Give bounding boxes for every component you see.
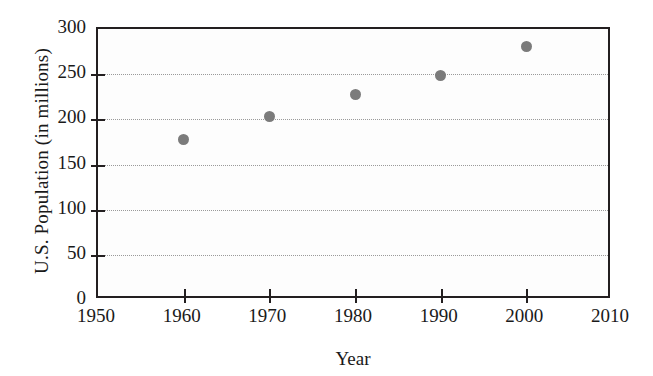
y-axis-tick-label: 200 xyxy=(26,107,86,126)
y-axis-tick-labels: 050100150200250300 xyxy=(22,27,86,298)
y-axis-tick xyxy=(91,119,105,121)
data-point xyxy=(264,111,275,122)
y-axis-tick xyxy=(91,255,105,257)
gridline-y xyxy=(98,74,608,75)
x-axis-tick-label: 2000 xyxy=(484,306,564,325)
x-axis-tick xyxy=(269,289,271,303)
y-axis-tick-label: 50 xyxy=(26,243,86,262)
x-axis-tick xyxy=(355,289,357,303)
x-axis-tick-label: 1980 xyxy=(313,306,393,325)
x-axis-tick xyxy=(441,289,443,303)
y-axis-tick-label: 300 xyxy=(26,17,86,36)
gridline-y xyxy=(98,165,608,166)
x-axis-tick-label: 1990 xyxy=(399,306,479,325)
data-point xyxy=(350,89,361,100)
data-point xyxy=(178,134,189,145)
x-axis-tick xyxy=(526,289,528,303)
y-axis-tick xyxy=(91,210,105,212)
x-axis-tick xyxy=(184,289,186,303)
gridline-y xyxy=(98,255,608,256)
x-axis-tick-label: 1970 xyxy=(227,306,307,325)
data-point xyxy=(521,41,532,52)
y-axis-tick xyxy=(91,74,105,76)
x-axis-title: Year xyxy=(96,348,610,370)
x-axis-tick-labels: 1950196019701980199020002010 xyxy=(0,306,653,332)
plot-area xyxy=(96,27,610,298)
gridline-y xyxy=(98,119,608,120)
x-axis-tick-label: 2010 xyxy=(570,306,650,325)
y-axis-tick-label: 150 xyxy=(26,153,86,172)
y-axis-tick-label: 250 xyxy=(26,62,86,81)
x-axis-tick-label: 1950 xyxy=(56,306,136,325)
scatter-plot-figure: U.S. Population (in millions) 0501001502… xyxy=(0,0,653,376)
data-point xyxy=(435,70,446,81)
x-axis-tick-label: 1960 xyxy=(142,306,222,325)
gridline-y xyxy=(98,210,608,211)
y-axis-tick xyxy=(91,165,105,167)
y-axis-tick-label: 100 xyxy=(26,198,86,217)
